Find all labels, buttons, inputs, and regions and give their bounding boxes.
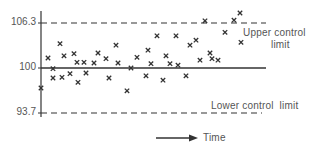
x-marker-icon (82, 60, 86, 64)
x-marker-icon (239, 40, 243, 44)
lower-limit-annotation: Lower control limit (211, 100, 298, 111)
x-marker-icon (198, 58, 202, 62)
x-marker-icon (232, 18, 236, 22)
x-marker-icon (51, 67, 55, 71)
x-marker-icon (96, 51, 100, 55)
y-tick-label-center: 100 (0, 62, 36, 72)
control-chart: 106.3 100 93.7 Upper control limit Lower… (0, 0, 315, 151)
x-marker-icon (149, 62, 153, 66)
y-tick-label-lower: 93.7 (0, 107, 36, 117)
x-marker-icon (58, 42, 62, 46)
x-marker-icon (174, 34, 178, 38)
x-marker-icon (184, 74, 188, 78)
x-marker-icon (238, 11, 242, 15)
x-marker-icon (135, 55, 139, 59)
x-marker-icon (155, 34, 159, 38)
x-marker-icon (194, 38, 198, 42)
upper-limit-annotation-line2: limit (271, 39, 290, 50)
x-marker-icon (60, 75, 64, 79)
x-marker-icon (168, 62, 172, 66)
x-marker-icon (208, 51, 212, 55)
x-marker-icon (210, 57, 214, 61)
plot-area (0, 0, 315, 151)
x-marker-icon (188, 43, 192, 47)
y-tick-label-upper: 106.3 (0, 17, 36, 27)
x-marker-icon (146, 48, 150, 52)
x-marker-icon (161, 78, 165, 82)
x-marker-icon (144, 74, 148, 78)
x-marker-icon (223, 30, 227, 34)
upper-limit-annotation-line1: Upper control (243, 27, 306, 38)
x-marker-icon (116, 61, 120, 65)
x-marker-icon (62, 54, 66, 58)
x-marker-icon (203, 19, 207, 23)
x-marker-icon (75, 60, 79, 64)
time-axis-label: Time (203, 132, 226, 143)
x-marker-icon (51, 76, 55, 80)
x-marker-icon (125, 89, 129, 93)
x-marker-icon (84, 71, 88, 75)
x-marker-icon (176, 63, 180, 67)
x-marker-icon (76, 80, 80, 84)
x-marker-icon (114, 43, 118, 47)
x-marker-icon (92, 61, 96, 65)
time-arrow-icon (156, 135, 198, 142)
x-marker-icon (46, 56, 50, 60)
x-marker-icon (107, 76, 111, 80)
x-marker-icon (216, 58, 220, 62)
x-marker-icon (104, 57, 108, 61)
x-marker-icon (72, 52, 76, 56)
x-marker-icon (68, 72, 72, 76)
x-marker-icon (164, 54, 168, 58)
